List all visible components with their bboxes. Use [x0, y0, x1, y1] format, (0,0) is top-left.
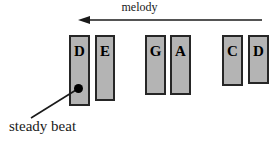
music-notation-diagram: melody D E G A C D steady beat — [0, 0, 279, 145]
steady-beat-label: steady beat — [9, 118, 76, 135]
steady-beat-dot — [74, 84, 83, 93]
